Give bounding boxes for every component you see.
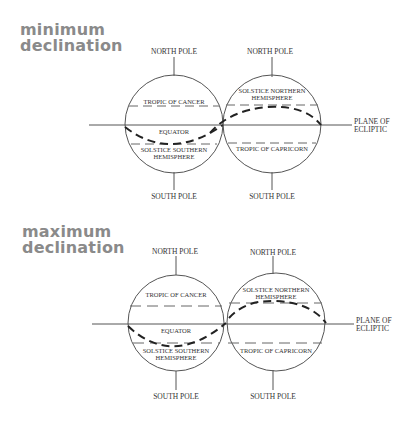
south-pole-label: SOUTH POLE [153, 392, 199, 401]
tropic-of-capricorn-label: TROPIC OF CAPRICORN [240, 347, 312, 354]
ecliptic-label-2: ECLIPTIC [354, 125, 387, 134]
solstice-southern-label-2: HEMISPHERE [156, 354, 197, 361]
south-pole-label: SOUTH POLE [151, 192, 197, 201]
north-pole-label: NORTH POLE [247, 47, 293, 56]
tropic-of-capricorn-label: TROPIC OF CAPRICORN [236, 145, 308, 152]
solstice-southern-label-2: HEMISPHERE [154, 153, 195, 160]
right-globe: NORTH POLE SOLSTICE NORTHERN HEMISPHERE … [210, 47, 321, 201]
declination-diagram: NORTH POLE TROPIC OF CANCER EQUATOR SOLS… [0, 0, 414, 426]
left-globe: NORTH POLE TROPIC OF CANCER EQUATOR SOLS… [125, 47, 223, 201]
north-pole-label: NORTH POLE [151, 47, 197, 56]
solstice-northern-label-1: SOLSTICE NORTHERN [243, 286, 310, 293]
north-pole-label: NORTH POLE [152, 247, 198, 256]
equator-label: EQUATOR [161, 327, 192, 334]
solstice-southern-label-1: SOLSTICE SOUTHERN [141, 146, 208, 153]
solstice-northern-label-2: HEMISPHERE [256, 293, 297, 300]
south-pole-label: SOUTH POLE [249, 192, 295, 201]
south-pole-label: SOUTH POLE [250, 392, 296, 401]
ecliptic-label-2: ECLIPTIC [356, 324, 389, 333]
north-pole-label: NORTH POLE [250, 248, 296, 257]
tropic-of-cancer-label: TROPIC OF CANCER [143, 98, 205, 105]
tropic-of-cancer-label: TROPIC OF CANCER [145, 291, 207, 298]
minimum-declination-panel: NORTH POLE TROPIC OF CANCER EQUATOR SOLS… [89, 47, 390, 201]
sun-path-dashed [210, 107, 321, 133]
solstice-northern-label-1: SOLSTICE NORTHERN [239, 87, 306, 94]
equator-label: EQUATOR [159, 128, 190, 135]
solstice-southern-label-1: SOLSTICE SOUTHERN [143, 347, 210, 354]
sun-path-dashed [229, 301, 326, 323]
solstice-northern-label-2: HEMISPHERE [252, 94, 293, 101]
maximum-declination-panel: NORTH POLE TROPIC OF CANCER EQUATOR SOLS… [92, 247, 392, 401]
